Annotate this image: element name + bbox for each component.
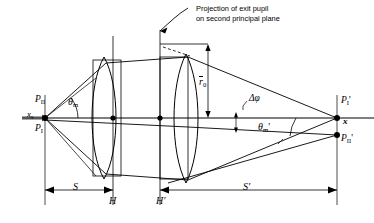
axis-label-x-right: x <box>343 117 348 126</box>
ray-upper-lens2-to-image <box>188 57 337 118</box>
label-delta-phi: Δφ <box>249 94 260 104</box>
label-r0: r0 <box>199 76 206 88</box>
label-H-prime: H' <box>156 196 165 207</box>
label-P-I: PI <box>35 124 43 134</box>
ray-upper-object-to-lens1 <box>45 63 106 118</box>
ray-lower-object-to-lens1 <box>45 118 106 174</box>
dim-S-arrowhead-left-icon <box>45 187 54 194</box>
lens2-vertex-dot <box>157 115 162 120</box>
label-theta-m-prime: θm' <box>258 122 270 133</box>
dim-Sprime-arrowhead-right-icon <box>328 187 337 194</box>
label-P-II: PII <box>35 95 45 105</box>
chief-ray-object-to-lens2 <box>45 120 188 127</box>
ray-lower-crossing-to-PIIprime <box>168 135 337 183</box>
dim-Sprime-arrowhead-left-icon <box>160 187 169 194</box>
exit-pupil-note: Projection of exit pupil on second princ… <box>196 4 280 24</box>
lens1-vertex-dot <box>110 115 115 120</box>
label-S-prime: S' <box>243 182 250 193</box>
theta-m-prime-arc <box>290 118 296 136</box>
ray-object-to-lens1-mount-bottom <box>45 118 96 176</box>
exit-pupil-note-line1: Projection of exit pupil <box>196 4 268 13</box>
optical-system-diagram <box>0 0 374 223</box>
delta-phi-arrowhead-up-icon <box>234 112 238 118</box>
axis-label-xs: xs <box>27 110 33 120</box>
delta-phi-arrowhead-down-icon <box>234 128 238 134</box>
note-callout-arrowhead-icon <box>160 28 167 34</box>
label-H: H <box>109 196 116 207</box>
label-theta-m: θm <box>68 97 78 108</box>
label-S: S <box>73 182 78 193</box>
theta-m-prime-leader <box>278 139 283 144</box>
ray-lower-lens1-to-lens2 <box>106 174 188 180</box>
r0-arrowhead-up-icon <box>205 44 210 51</box>
label-P-I-prime: PI' <box>341 96 351 106</box>
label-P-II-prime: PII' <box>341 134 353 144</box>
r0-arrowhead-down-icon <box>205 111 210 118</box>
exit-pupil-note-line2: on second principal plane <box>196 14 280 23</box>
delta-phi-leader-icon <box>243 101 247 110</box>
note-callout-arrow-icon <box>160 8 188 31</box>
dim-S-arrowhead-right-icon <box>104 187 113 194</box>
